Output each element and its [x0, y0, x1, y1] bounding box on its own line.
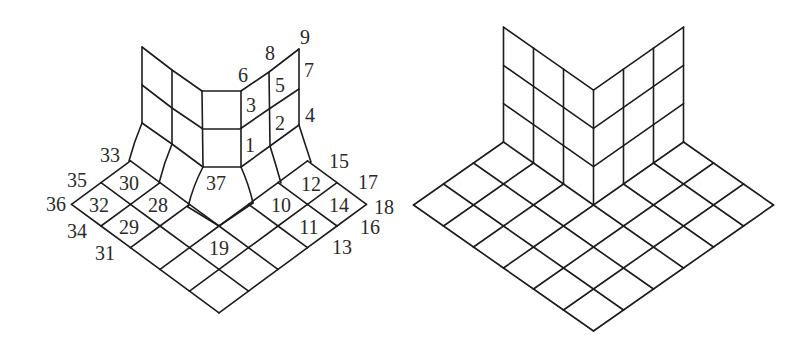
- floor-edge: [160, 269, 190, 291]
- fillet-curve: [241, 167, 253, 203]
- node-label-18: 18: [374, 196, 394, 218]
- floor-edge: [278, 248, 308, 270]
- node-label-32: 32: [89, 194, 109, 216]
- floor-edge: [534, 205, 564, 226]
- floor-edge: [654, 226, 684, 247]
- node-label-35: 35: [67, 169, 87, 191]
- floor-edge: [654, 142, 684, 163]
- floor-edge: [714, 184, 744, 205]
- wall-column-edge: [202, 91, 203, 167]
- node-label-30: 30: [119, 172, 139, 194]
- node-label-10: 10: [271, 194, 291, 216]
- wall-column-edge: [269, 72, 270, 146]
- floor-edge: [534, 289, 564, 310]
- floor-edge: [594, 247, 624, 268]
- floor-edge: [624, 205, 654, 226]
- node-label-14: 14: [329, 194, 349, 216]
- node-label-1: 1: [245, 134, 255, 156]
- floor-edge: [219, 269, 249, 291]
- floor-edge: [190, 291, 220, 313]
- floor-edge: [534, 226, 564, 247]
- node-label-16: 16: [360, 216, 380, 238]
- node-label-34: 34: [67, 220, 87, 242]
- floor-edge: [684, 142, 714, 163]
- floor-edge: [594, 226, 624, 247]
- floor-edge: [594, 289, 624, 310]
- floor-edge: [249, 269, 279, 291]
- floor-edge: [594, 310, 624, 331]
- node-label-13: 13: [332, 236, 352, 258]
- node-label-37: 37: [206, 172, 226, 194]
- node-label-19: 19: [209, 237, 229, 259]
- node-label-12: 12: [301, 173, 321, 195]
- floor-edge: [534, 268, 564, 289]
- fillet-curve: [299, 125, 311, 162]
- floor-edge: [684, 184, 714, 205]
- floor-edge: [504, 142, 534, 163]
- floor-edge: [684, 226, 714, 247]
- floor-edge: [131, 248, 161, 270]
- node-label-17: 17: [358, 171, 378, 193]
- fillet-curve: [188, 167, 203, 207]
- node-label-5: 5: [275, 74, 285, 96]
- node-label-6: 6: [238, 64, 248, 86]
- floor-edge: [474, 205, 504, 226]
- floor-edge: [444, 205, 474, 226]
- floor-edge: [564, 268, 594, 289]
- floor-edge: [414, 205, 444, 226]
- floor-edge: [160, 248, 190, 270]
- node-label-33: 33: [100, 144, 120, 166]
- floor-edge: [594, 268, 624, 289]
- node-label-28: 28: [148, 194, 168, 216]
- floor-edge: [249, 226, 279, 248]
- floor-edge: [474, 184, 504, 205]
- floor-edge: [624, 184, 654, 205]
- floor-edge: [504, 226, 534, 247]
- node-label-36: 36: [46, 193, 66, 215]
- floor-edge: [654, 268, 684, 289]
- node-label-9: 9: [300, 26, 310, 48]
- fillet-curve: [159, 144, 172, 183]
- fillet-base-edge: [219, 203, 253, 226]
- floor-edge: [190, 269, 220, 291]
- wall-row-edge: [504, 27, 684, 90]
- figure-stage: 1234567891011121314151617181928293031323…: [0, 0, 812, 351]
- fillet-node-labels: 1234567891011121314151617181928293031323…: [46, 26, 394, 264]
- floor-edge: [684, 205, 714, 226]
- floor-edge: [564, 289, 594, 310]
- node-label-15: 15: [329, 150, 349, 172]
- floor-edge: [504, 247, 534, 268]
- floor-edge: [714, 226, 744, 247]
- floor-edge: [160, 226, 190, 248]
- floor-edge: [654, 205, 684, 226]
- floor-edge: [624, 289, 654, 310]
- node-label-11: 11: [299, 216, 318, 238]
- floor-edge: [684, 247, 714, 268]
- floor-edge: [534, 163, 564, 184]
- floor-edge: [444, 184, 474, 205]
- sharp-corner-mesh: [414, 27, 774, 331]
- floor-edge: [474, 247, 504, 268]
- node-label-29: 29: [119, 216, 139, 238]
- floor-edge: [564, 310, 594, 331]
- floor-edge: [564, 226, 594, 247]
- floor-edge: [474, 226, 504, 247]
- node-label-4: 4: [305, 104, 315, 126]
- floor-edge: [444, 226, 474, 247]
- floor-edge: [654, 163, 684, 184]
- node-label-7: 7: [304, 59, 314, 81]
- floor-edge: [654, 184, 684, 205]
- floor-edge: [714, 163, 744, 184]
- floor-edge: [564, 184, 594, 205]
- fillet-base-edge: [188, 207, 219, 226]
- floor-edge: [534, 247, 564, 268]
- floor-edge: [744, 184, 774, 205]
- floor-edge: [594, 184, 624, 205]
- floor-edge: [474, 142, 504, 163]
- floor-edge: [594, 205, 624, 226]
- floor-edge: [564, 247, 594, 268]
- floor-edge: [504, 268, 534, 289]
- floor-edge: [714, 205, 744, 226]
- floor-edge: [624, 163, 654, 184]
- floor-edge: [564, 205, 594, 226]
